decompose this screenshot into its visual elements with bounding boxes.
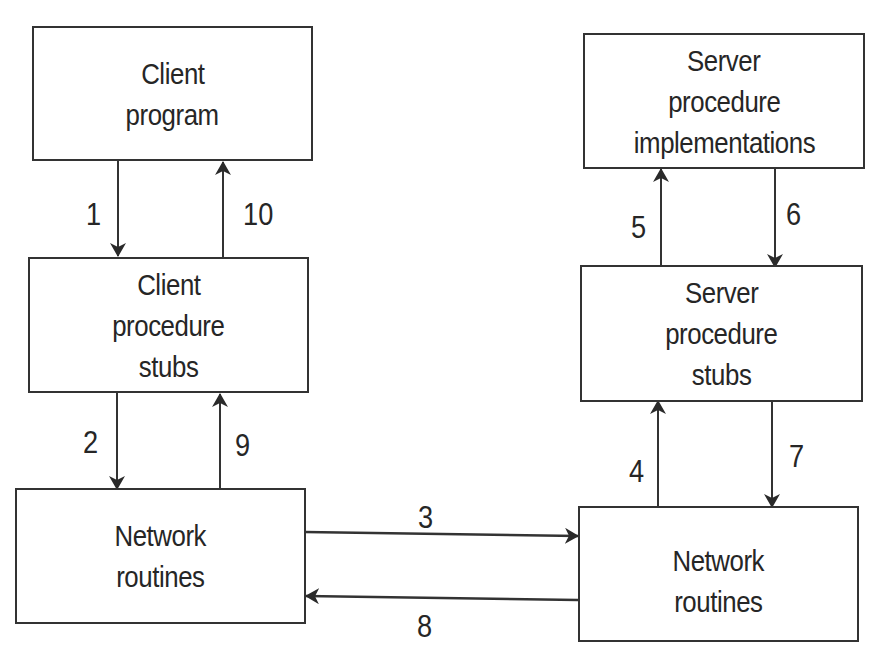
step-8-label: 8 <box>417 608 432 645</box>
box-label: routines <box>674 581 762 622</box>
server-impl-box: Server procedure implementations <box>583 33 865 169</box>
step-4-label: 4 <box>629 453 644 490</box>
step-10-label: 10 <box>243 196 273 233</box>
step-6-label: 6 <box>786 196 801 233</box>
box-label: program <box>126 94 219 135</box>
server-network-box: Network routines <box>578 506 859 642</box>
box-label: Client <box>137 264 200 305</box>
box-label: Server <box>685 272 758 313</box>
step-3-label: 3 <box>418 499 433 536</box>
box-label: stubs <box>139 346 199 387</box>
step-1-label: 1 <box>86 196 101 233</box>
client-stubs-box: Client procedure stubs <box>28 257 309 393</box>
box-label: procedure <box>112 305 224 346</box>
step-9-label: 9 <box>235 427 250 464</box>
box-label: Client <box>141 53 204 94</box>
arrow-8 <box>306 596 578 600</box>
box-label: routines <box>116 556 204 597</box>
arrow-3 <box>305 532 578 536</box>
box-label: Network <box>115 515 207 556</box>
box-label: procedure <box>665 313 777 354</box>
box-label: Server <box>687 40 760 81</box>
box-label: procedure <box>668 81 780 122</box>
step-7-label: 7 <box>789 438 804 475</box>
client-network-box: Network routines <box>15 488 306 624</box>
step-5-label: 5 <box>631 209 646 246</box>
box-label: stubs <box>692 354 752 395</box>
step-2-label: 2 <box>83 424 98 461</box>
box-label: implementations <box>633 122 814 163</box>
client-program-box: Client program <box>32 26 313 161</box>
box-label: Network <box>673 540 765 581</box>
server-stubs-box: Server procedure stubs <box>580 265 863 402</box>
